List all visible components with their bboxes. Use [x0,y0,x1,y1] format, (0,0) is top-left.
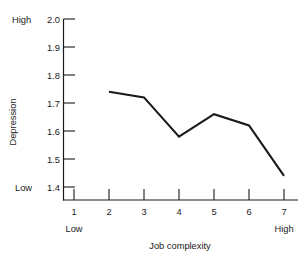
chart-figure: 2.0 1.9 1.8 1.7 1.6 1.5 1.4 High Low Dep… [0,0,305,255]
y-tick-label-1-4: 1.4 [47,183,60,193]
x-tick-label-1: 1 [71,207,76,217]
data-series-line [109,92,284,176]
y-tick-label-1-7: 1.7 [47,99,60,109]
x-tick-marks [74,189,284,200]
y-axis-high-label: High [12,15,31,25]
x-tick-label-5: 5 [211,207,216,217]
y-tick-marks [64,19,76,187]
y-tick-label-1-8: 1.8 [47,71,60,81]
y-tick-label-1-5: 1.5 [47,155,60,165]
y-axis-title: Depression [8,98,18,145]
x-axis-high-label: High [274,224,293,234]
x-tick-label-6: 6 [246,207,251,217]
line-chart: 2.0 1.9 1.8 1.7 1.6 1.5 1.4 High Low Dep… [0,0,305,255]
y-axis-low-label: Low [15,183,32,193]
x-tick-label-4: 4 [176,207,181,217]
y-tick-label-1-9: 1.9 [47,43,60,53]
x-axis-title: Job complexity [149,241,211,251]
x-tick-label-2: 2 [106,207,111,217]
y-tick-label-2-0: 2.0 [47,15,60,25]
x-tick-label-7: 7 [281,207,286,217]
y-tick-label-1-6: 1.6 [47,127,60,137]
x-tick-label-3: 3 [141,207,146,217]
x-axis-low-label: Low [65,224,82,234]
